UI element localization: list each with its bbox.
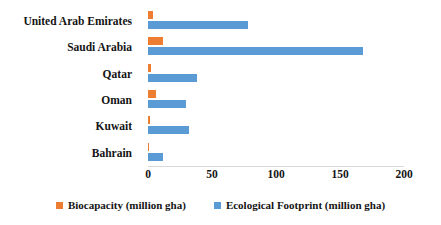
bar-biocapacity[interactable] xyxy=(148,64,151,72)
x-axis-line xyxy=(148,166,404,167)
bar-biocapacity[interactable] xyxy=(148,143,149,151)
bar-group xyxy=(148,8,404,34)
x-tick-label: 0 xyxy=(145,168,151,180)
legend-label: Ecological Footprint (million gha) xyxy=(226,199,385,211)
bar-biocapacity[interactable] xyxy=(148,90,156,98)
bar-ecological-footprint[interactable] xyxy=(148,21,248,29)
bar-group xyxy=(148,87,404,113)
bar-chart: United Arab EmiratesSaudi ArabiaQatarOma… xyxy=(0,0,441,225)
bar-ecological-footprint[interactable] xyxy=(148,153,163,161)
x-tick-label: 100 xyxy=(267,168,284,180)
category-label: Kuwait xyxy=(0,113,140,139)
x-tick-label: 50 xyxy=(206,168,218,180)
legend-swatch-icon xyxy=(214,202,221,209)
plot-area xyxy=(148,8,404,166)
bar-biocapacity[interactable] xyxy=(148,116,150,124)
category-label: Qatar xyxy=(0,61,140,87)
category-label: Saudi Arabia xyxy=(0,34,140,60)
bar-group xyxy=(148,140,404,166)
bar-biocapacity[interactable] xyxy=(148,11,153,19)
bar-group xyxy=(148,34,404,60)
chart-legend: Biocapacity (million gha)Ecological Foot… xyxy=(0,199,441,211)
bar-ecological-footprint[interactable] xyxy=(148,100,186,108)
category-label: United Arab Emirates xyxy=(0,8,140,34)
bar-ecological-footprint[interactable] xyxy=(148,47,363,55)
x-tick-label: 150 xyxy=(331,168,348,180)
legend-item[interactable]: Biocapacity (million gha) xyxy=(56,199,186,211)
bar-group xyxy=(148,61,404,87)
legend-item[interactable]: Ecological Footprint (million gha) xyxy=(214,199,385,211)
x-tick-label: 200 xyxy=(395,168,412,180)
legend-label: Biocapacity (million gha) xyxy=(68,199,186,211)
bar-ecological-footprint[interactable] xyxy=(148,74,197,82)
x-axis-tick-labels: 050100150200 xyxy=(0,168,441,184)
category-label: Oman xyxy=(0,87,140,113)
category-axis-labels: United Arab EmiratesSaudi ArabiaQatarOma… xyxy=(0,8,140,166)
category-label: Bahrain xyxy=(0,140,140,166)
bar-ecological-footprint[interactable] xyxy=(148,126,189,134)
legend-swatch-icon xyxy=(56,202,63,209)
bar-biocapacity[interactable] xyxy=(148,37,163,45)
bar-group xyxy=(148,113,404,139)
